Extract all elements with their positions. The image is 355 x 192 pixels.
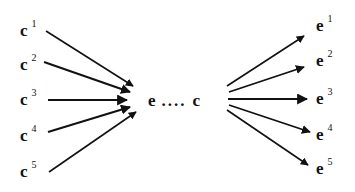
label-superscript: 4 <box>328 122 333 133</box>
center-node-c: c <box>193 91 201 110</box>
label-base: e <box>316 125 324 144</box>
input-label-c3: c3 <box>20 91 37 108</box>
output-label-e2: e2 <box>316 52 333 69</box>
input-label-c2: c2 <box>20 56 37 73</box>
arrow-c-to-e1 <box>227 36 304 86</box>
label-base: c <box>20 55 28 74</box>
label-superscript: 4 <box>32 123 37 134</box>
output-label-e1: e1 <box>316 17 333 34</box>
output-label-e3: e3 <box>316 90 333 107</box>
output-label-e4: e4 <box>316 126 333 143</box>
arrow-c5-to-e <box>49 112 136 172</box>
input-label-c4: c4 <box>20 127 37 144</box>
label-superscript: 2 <box>328 48 333 59</box>
ellipsis: .... <box>162 91 187 110</box>
center-chain: e....c <box>148 92 200 109</box>
input-label-c5: c5 <box>20 163 37 180</box>
label-base: c <box>20 90 28 109</box>
arrow-c2-to-e <box>44 62 130 92</box>
label-superscript: 5 <box>328 156 333 167</box>
label-base: e <box>316 51 324 70</box>
label-superscript: 2 <box>32 52 37 63</box>
label-superscript: 1 <box>32 18 37 29</box>
label-base: e <box>316 16 324 35</box>
label-base: c <box>20 162 28 181</box>
arrow-c-to-e2 <box>229 67 304 92</box>
arrow-c4-to-e <box>48 107 130 132</box>
center-node-e: e <box>148 91 156 110</box>
label-superscript: 5 <box>32 159 37 170</box>
arrow-c-to-e4 <box>229 105 310 132</box>
label-superscript: 1 <box>328 13 333 24</box>
label-base: c <box>20 21 28 40</box>
label-base: e <box>316 159 324 178</box>
label-base: c <box>20 126 28 145</box>
output-label-e5: e5 <box>316 160 333 177</box>
label-superscript: 3 <box>328 86 333 97</box>
label-base: e <box>316 89 324 108</box>
label-superscript: 3 <box>32 87 37 98</box>
input-label-c1: c1 <box>20 22 37 39</box>
